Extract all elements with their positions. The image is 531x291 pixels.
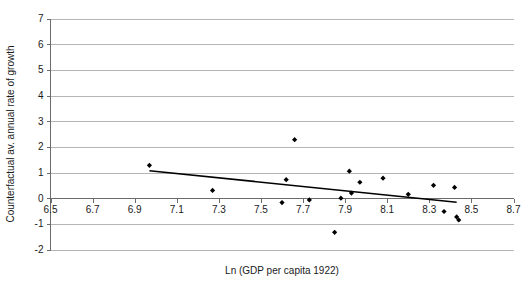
data-point-marker <box>406 192 411 197</box>
x-tick-label: 7.7 <box>296 204 310 215</box>
x-tick-label: 8.7 <box>507 204 521 215</box>
x-tick-label: 7.3 <box>212 204 226 215</box>
data-point-marker <box>380 176 385 181</box>
x-axis-title: Ln (GDP per capita 1922) <box>225 265 339 276</box>
chart-canvas: -2-101234567 6.56.76.97.17.37.57.77.98.1… <box>0 0 531 291</box>
data-point-marker <box>357 180 362 185</box>
y-axis <box>47 19 51 251</box>
y-tick-label: 1 <box>38 167 44 178</box>
data-point-marker <box>332 230 337 235</box>
x-tick-label: 8.3 <box>422 204 436 215</box>
data-point-marker <box>338 196 343 201</box>
y-axis-title: Counterfactual av. annual rate of growth <box>5 45 16 222</box>
x-tick-labels: 6.56.76.97.17.37.57.77.98.18.38.58.7 <box>44 204 521 215</box>
x-tick-label: 8.5 <box>464 204 478 215</box>
y-tick-labels: -2-101234567 <box>35 13 44 255</box>
x-tick-label: 7.1 <box>170 204 184 215</box>
y-tick-label: 4 <box>38 90 44 101</box>
scatter-chart: -2-101234567 6.56.76.97.17.37.57.77.98.1… <box>0 0 531 291</box>
data-point-marker <box>210 188 215 193</box>
data-point-marker <box>431 183 436 188</box>
data-point-marker <box>147 163 152 168</box>
y-tick-label: -2 <box>35 244 44 255</box>
x-tick-label: 6.5 <box>44 204 58 215</box>
gridlines <box>51 20 514 251</box>
y-tick-label: 6 <box>38 39 44 50</box>
y-tick-label: 2 <box>38 141 44 152</box>
data-point-marker <box>292 137 297 142</box>
x-tick-label: 6.7 <box>86 204 100 215</box>
x-tick-label: 7.5 <box>254 204 268 215</box>
y-tick-label: -1 <box>35 218 44 229</box>
x-tick-label: 7.9 <box>338 204 352 215</box>
data-point-marker <box>441 209 446 214</box>
y-tick-label: 0 <box>38 193 44 204</box>
data-point-marker <box>452 185 457 190</box>
y-tick-label: 5 <box>38 64 44 75</box>
trend-line <box>149 171 456 203</box>
data-point-marker <box>284 177 289 182</box>
data-point-marker <box>279 200 284 205</box>
y-tick-label: 7 <box>38 13 44 24</box>
x-tick-label: 8.1 <box>380 204 394 215</box>
x-tick-label: 6.9 <box>128 204 142 215</box>
trendline-segment <box>149 171 456 203</box>
y-tick-label: 3 <box>38 116 44 127</box>
